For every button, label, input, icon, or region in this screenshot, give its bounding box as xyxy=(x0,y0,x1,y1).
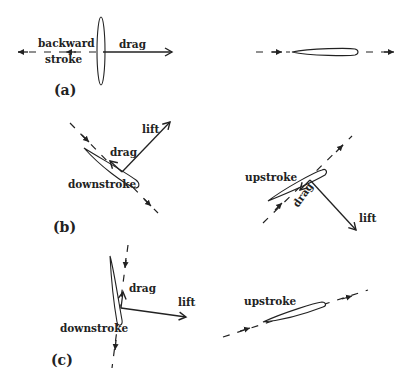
lift-label: lift xyxy=(359,212,376,224)
drag-label: drag xyxy=(129,282,157,294)
wing-section xyxy=(97,17,105,85)
lift-label: lift xyxy=(142,123,159,135)
drag-label: drag xyxy=(110,146,138,158)
stroke-label: stroke xyxy=(45,53,83,65)
lift-label: lift xyxy=(178,296,195,308)
panel-a-right xyxy=(256,48,396,55)
downstroke-label: downstroke xyxy=(68,178,137,190)
panel-label-b: (b) xyxy=(53,219,76,235)
lift-arrow-icon xyxy=(310,180,356,230)
panel-label-a: (a) xyxy=(54,82,76,98)
wing-stroke-diagram: backward stroke drag (a) lift drag downs… xyxy=(0,0,404,381)
panel-a-left: backward stroke drag (a) xyxy=(18,17,172,98)
panel-b-left: lift drag downstroke (b) xyxy=(53,122,170,235)
drag-label: drag xyxy=(119,38,147,50)
backward-label: backward xyxy=(38,37,95,49)
wing-section xyxy=(110,256,122,325)
panel-c-left: drag lift downstroke (c) xyxy=(51,245,195,368)
panel-b-right: upstroke drag lift xyxy=(245,136,376,230)
lift-arrow-icon xyxy=(121,308,186,317)
downstroke-label: downstroke xyxy=(60,322,129,334)
upstroke-label: upstroke xyxy=(244,295,297,307)
panel-c-right: upstroke xyxy=(223,290,368,337)
upstroke-label: upstroke xyxy=(245,171,298,183)
wing-section-feathered xyxy=(292,48,358,55)
panel-label-c: (c) xyxy=(51,352,73,368)
